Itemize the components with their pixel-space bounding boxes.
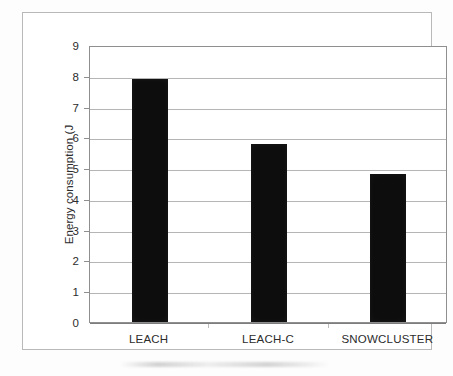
y-tick-label-5: 5 xyxy=(39,162,79,176)
y-tick-label-1: 1 xyxy=(39,285,79,299)
scan-artifact xyxy=(120,362,330,367)
x-minor-tick-2 xyxy=(328,324,329,328)
x-tick-label-leach: LEACH xyxy=(89,329,208,349)
y-tick-label-0: 0 xyxy=(39,316,79,330)
y-tick-label-8: 8 xyxy=(39,70,79,84)
y-axis-tick-labels: 9876543210 xyxy=(23,13,89,324)
bar-snowcluster xyxy=(370,174,406,322)
x-axis-tick-labels: LEACHLEACH-CSNOWCLUSTER xyxy=(89,329,447,349)
plot-area xyxy=(89,46,447,323)
y-tick-label-4: 4 xyxy=(39,193,79,207)
bar-leach-c xyxy=(251,144,287,323)
y-tick-label-6: 6 xyxy=(39,131,79,145)
bar-leach xyxy=(132,79,168,322)
y-tick-label-3: 3 xyxy=(39,224,79,238)
y-tick-label-9: 9 xyxy=(39,39,79,53)
x-tick-label-snowcluster: SNOWCLUSTER xyxy=(328,329,447,349)
chart-canvas: Energy consumption (J 9876543210 LEACHLE… xyxy=(0,0,453,376)
figure-frame: Energy consumption (J 9876543210 LEACHLE… xyxy=(22,12,432,350)
y-tick-label-2: 2 xyxy=(39,254,79,268)
gridline-0 xyxy=(90,323,446,324)
x-tick-label-leach-c: LEACH-C xyxy=(208,329,327,349)
x-minor-tick-1 xyxy=(208,324,209,328)
bars-layer xyxy=(90,47,446,322)
y-tick-label-7: 7 xyxy=(39,101,79,115)
